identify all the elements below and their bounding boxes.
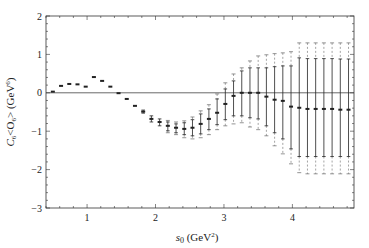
data-point [330,43,334,174]
point-marker [281,100,285,102]
x-axis-tick-labels: 1234 [85,212,295,223]
point-marker [199,123,203,125]
data-point [133,105,137,107]
point-marker [166,125,170,127]
data-point [223,83,227,126]
x-tick-label: 2 [153,212,158,223]
y-axis-title-close: ) [4,77,17,81]
point-marker [75,83,79,85]
point-marker [232,95,236,97]
point-marker [314,108,318,110]
point-marker [207,118,211,120]
point-marker [322,108,326,110]
data-point [314,43,318,174]
point-marker [133,105,137,107]
y-tick-label: 1 [37,49,42,60]
data-point [75,83,79,85]
chart: 1234 210−1−2−3 s0 (GeV2) C6<O6> (GeV6) [0,0,369,248]
y-tick-label: 0 [37,87,42,98]
data-point [141,110,145,113]
data-point [215,94,219,130]
point-marker [215,112,219,114]
point-marker [256,92,260,94]
point-marker [330,108,334,110]
point-marker [223,103,227,105]
data-point [149,116,153,122]
point-marker [190,127,194,129]
x-tick-label: 4 [290,212,295,223]
y-tick-label: −2 [31,164,42,175]
point-marker [305,108,309,110]
data-point [84,86,88,88]
point-marker [297,107,301,109]
data-point [59,85,63,87]
point-marker [338,109,342,111]
data-point [256,56,260,130]
data-point [158,119,162,126]
y-axis-title-unit: > (GeV [4,85,17,118]
point-marker [182,128,186,130]
y-tick-label: −3 [31,203,42,214]
data-point [347,43,351,174]
point-marker [174,127,178,129]
data-point [108,86,112,88]
point-marker [289,106,293,108]
data-point [289,52,293,164]
data-point [305,43,309,174]
data-point [232,74,236,124]
data-point [322,43,326,174]
x-axis-title-close: ) [215,231,219,244]
y-tick-label: −1 [31,126,42,137]
data-series [51,43,351,174]
point-marker [84,86,88,88]
point-marker [108,86,112,88]
data-point [92,76,96,78]
data-point [273,54,277,146]
point-marker [141,111,145,113]
point-marker [347,109,351,111]
data-point [174,122,178,135]
data-point [297,43,301,173]
data-point [100,80,104,82]
data-point [248,61,252,127]
x-axis-title-unit: (GeV [184,231,211,244]
data-point [264,55,268,136]
point-marker [67,83,71,85]
data-point [281,53,285,154]
point-marker [248,92,252,94]
point-marker [51,91,55,93]
x-tick-label: 3 [221,212,226,223]
y-axis-tick-labels: 210−1−2−3 [31,11,42,214]
data-point [117,92,121,94]
data-point [199,111,203,138]
data-point [182,121,186,138]
point-marker [264,96,268,98]
data-point [51,91,55,93]
data-point [67,83,71,85]
point-marker [125,98,129,100]
data-point [207,105,211,135]
data-point [166,120,170,132]
point-marker [273,99,277,101]
point-marker [59,85,63,87]
x-tick-label: 1 [85,212,90,223]
y-axis-title-mid: <O [4,121,16,135]
y-axis-title: C6<O6> (GeV6) [4,77,18,146]
point-marker [240,92,244,94]
y-tick-label: 2 [37,11,42,22]
data-point [240,68,244,123]
data-point [190,117,194,139]
point-marker [149,118,153,120]
point-marker [158,121,162,123]
x-axis-title: s0 (GeV2) [176,231,219,245]
point-marker [100,80,104,82]
x-axis-ticks [46,16,347,208]
data-point [338,43,342,174]
point-marker [92,76,96,78]
data-point [125,98,129,100]
point-marker [117,92,121,94]
